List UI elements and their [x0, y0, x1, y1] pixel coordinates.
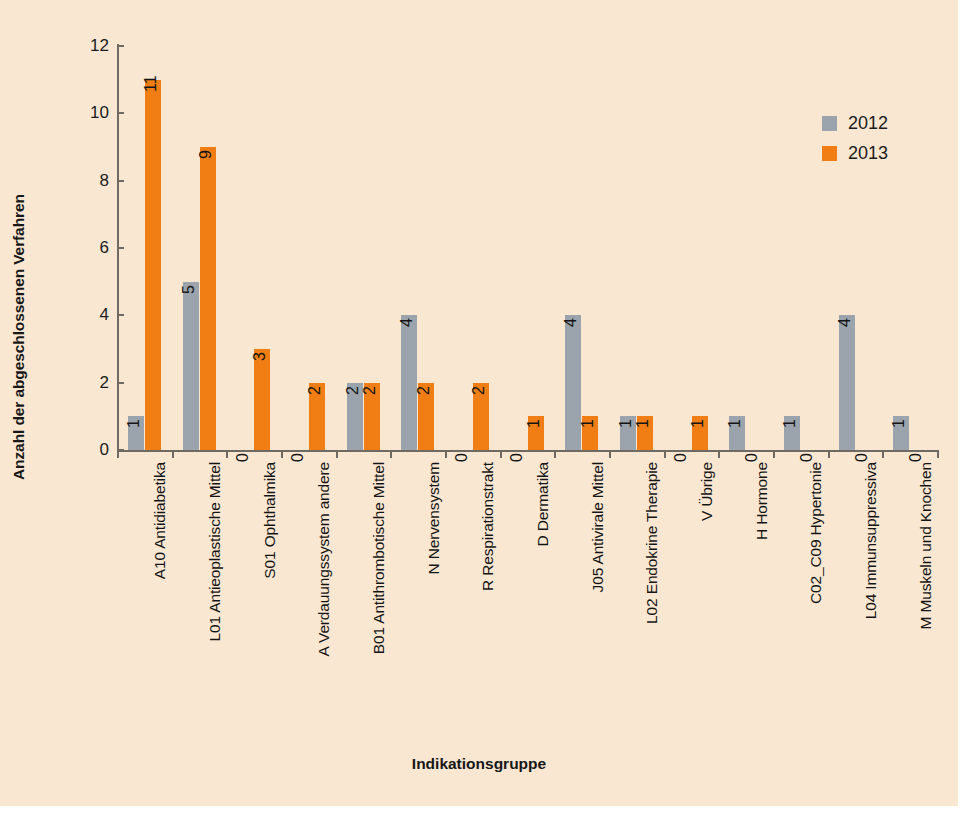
legend-label: 2012 — [848, 113, 888, 134]
x-tick-mark — [773, 450, 775, 458]
x-tick-mark — [172, 450, 174, 458]
bar-value-label: 11 — [142, 75, 160, 92]
x-tick-mark — [664, 450, 666, 458]
bar-value-label: 0 — [907, 453, 925, 462]
bar-value-label: 1 — [579, 419, 597, 428]
y-tick-mark — [117, 112, 124, 114]
x-tick-mark — [336, 450, 338, 458]
bar-value-label: 1 — [617, 419, 635, 428]
x-axis-line — [117, 450, 939, 452]
bar-2013-0 — [145, 80, 161, 450]
x-tick-mark — [718, 450, 720, 458]
legend-item: 2013 — [822, 138, 888, 168]
chart-figure: Anzahl der abgeschlossenen Verfahren 024… — [0, 0, 958, 806]
bar-2012-5 — [401, 315, 417, 450]
y-tick-label: 0 — [71, 440, 109, 460]
bar-value-label: 0 — [798, 453, 816, 462]
x-tick-mark — [500, 450, 502, 458]
bar-value-label: 1 — [726, 419, 744, 428]
x-axis-title: Indikationsgruppe — [0, 755, 958, 773]
plot-area: 024681012 111590302224202014111011010401… — [117, 46, 937, 450]
bar-2013-2 — [254, 349, 270, 450]
bar-value-label: 0 — [453, 453, 471, 462]
bar-value-label: 1 — [525, 419, 543, 428]
chart-legend: 20122013 — [822, 108, 888, 168]
x-tick-mark — [937, 450, 939, 458]
y-tick-mark — [117, 314, 124, 316]
x-tick-mark — [554, 450, 556, 458]
x-tick-label: J05 Antivirale Mittel — [589, 462, 607, 592]
y-tick-label: 2 — [71, 373, 109, 393]
bar-value-label: 4 — [836, 318, 854, 327]
x-tick-mark — [828, 450, 830, 458]
bar-value-label: 0 — [672, 453, 690, 462]
x-tick-label: M Muskeln und Knochen — [917, 462, 935, 629]
bar-value-label: 1 — [689, 419, 707, 428]
y-tick-mark — [117, 382, 124, 384]
bar-value-label: 3 — [251, 352, 269, 361]
x-tick-label: A Verdauungssystem andere — [315, 462, 333, 656]
x-tick-label: S01 Ophthalmika — [261, 462, 279, 579]
y-tick-label: 10 — [71, 103, 109, 123]
x-tick-mark — [445, 450, 447, 458]
x-tick-mark — [390, 450, 392, 458]
bar-value-label: 2 — [470, 386, 488, 395]
x-tick-mark — [281, 450, 283, 458]
bar-value-label: 2 — [415, 386, 433, 395]
bar-value-label: 0 — [234, 453, 252, 462]
x-tick-label: D Dermatika — [534, 462, 552, 546]
bar-value-label: 9 — [197, 150, 215, 159]
bar-value-label: 2 — [361, 386, 379, 395]
y-tick-label: 6 — [71, 238, 109, 258]
legend-label: 2013 — [848, 143, 888, 164]
x-tick-label: V Übrige — [698, 462, 716, 521]
y-axis-title: Anzahl der abgeschlossenen Verfahren — [10, 120, 36, 480]
bar-value-label: 1 — [634, 419, 652, 428]
x-tick-mark — [226, 450, 228, 458]
bar-value-label: 0 — [853, 453, 871, 462]
x-tick-label: B01 Antithrombotische Mittel — [370, 462, 388, 654]
bar-value-label: 1 — [781, 419, 799, 428]
bar-value-label: 1 — [125, 419, 143, 428]
x-tick-mark — [117, 450, 119, 458]
bar-value-label: 2 — [344, 386, 362, 395]
bar-2012-8 — [565, 315, 581, 450]
bar-value-label: 0 — [743, 453, 761, 462]
bar-value-label: 0 — [508, 453, 526, 462]
x-tick-label: A10 Antidiabetika — [151, 462, 169, 579]
bar-2012-13 — [839, 315, 855, 450]
y-tick-mark — [117, 180, 124, 182]
y-tick-mark — [117, 45, 124, 47]
bar-value-label: 1 — [890, 419, 908, 428]
x-tick-label: L01 Antieoplastische Mittel — [206, 462, 224, 641]
y-tick-label: 8 — [71, 171, 109, 191]
y-tick-label: 12 — [71, 36, 109, 56]
x-tick-mark — [882, 450, 884, 458]
x-tick-label: N Nervensystem — [425, 462, 443, 574]
bar-value-label: 2 — [306, 386, 324, 395]
bar-value-label: 5 — [180, 285, 198, 294]
x-tick-label: R Respirationstrakt — [479, 462, 497, 591]
legend-swatch-icon — [822, 116, 837, 131]
x-tick-label: L02 Endokrine Therapie — [643, 462, 661, 624]
bar-value-label: 4 — [398, 318, 416, 327]
y-tick-label: 4 — [71, 305, 109, 325]
x-tick-label: H Hormone — [753, 462, 771, 540]
x-tick-mark — [609, 450, 611, 458]
y-tick-mark — [117, 247, 124, 249]
x-tick-label: C02_C09 Hypertonie — [807, 462, 825, 604]
bar-2013-1 — [200, 147, 216, 450]
bar-2012-1 — [183, 282, 199, 450]
legend-item: 2012 — [822, 108, 888, 138]
x-tick-label: L04 Immunsuppressiva — [862, 462, 880, 619]
bar-value-label: 4 — [562, 318, 580, 327]
legend-swatch-icon — [822, 146, 837, 161]
bar-value-label: 0 — [289, 453, 307, 462]
